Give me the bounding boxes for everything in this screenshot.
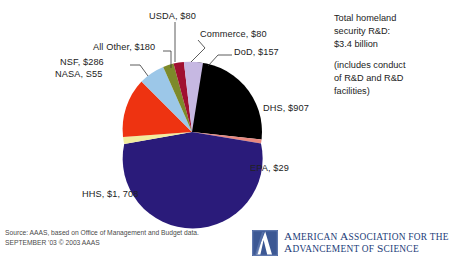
aaas-logo-text: AMERICAN ASSOCIATION FOR THE ADVANCEMENT…: [284, 231, 449, 256]
aaas-logo-line-1: AMERICAN ASSOCIATION FOR THE: [284, 231, 449, 243]
slice-label-nsf: NSF, $286: [60, 57, 104, 68]
slice-label-dhs: DHS, $907: [263, 103, 309, 114]
note-line-6: facilities): [334, 85, 440, 98]
note-line-3: $3.4 billion: [334, 38, 440, 51]
pie-slice-dhs: [192, 62, 262, 140]
source-line-1: Source: AAAS, based on Office of Managem…: [5, 228, 199, 238]
leader-line-nsf: [130, 65, 148, 76]
note-line-4: (includes conduct: [334, 59, 440, 72]
slice-label-commerce: Commerce, $80: [200, 29, 267, 40]
leader-line-dod: [208, 55, 232, 66]
aaas-logo-mark-icon: [252, 230, 278, 256]
source-line-2: SEPTEMBER '03 © 2003 AAAS: [5, 238, 199, 248]
pie-slice-hhs: [123, 132, 263, 229]
summary-note: Total homeland security R&D: $3.4 billio…: [334, 12, 440, 98]
note-line-1: Total homeland: [334, 12, 440, 25]
leader-line-commerce: [191, 40, 205, 62]
slice-label-nasa: NASA, S55: [55, 69, 102, 80]
note-line-2: security R&D:: [334, 25, 440, 38]
slice-label-epa: EPA, $29: [250, 163, 289, 174]
slice-label-hhs: HHS, $1, 708: [82, 189, 138, 200]
slice-label-all-other: All Other, $180: [93, 42, 155, 53]
note-line-5: of R&D and R&D: [334, 72, 440, 85]
aaas-logo-line-2: ADVANCEMENT OF SCIENCE: [284, 243, 449, 255]
source-note: Source: AAAS, based on Office of Managem…: [5, 228, 199, 247]
aaas-logo: AMERICAN ASSOCIATION FOR THE ADVANCEMENT…: [252, 228, 449, 258]
slice-label-usda: USDA, $80: [149, 11, 196, 22]
chart-area: USDA, $80 Commerce, $80 DoD, $157 All Ot…: [0, 0, 444, 220]
slice-label-dod: DoD, $157: [234, 47, 279, 58]
figure-footer: Source: AAAS, based on Office of Managem…: [0, 226, 444, 262]
pie-slices: [123, 62, 263, 229]
